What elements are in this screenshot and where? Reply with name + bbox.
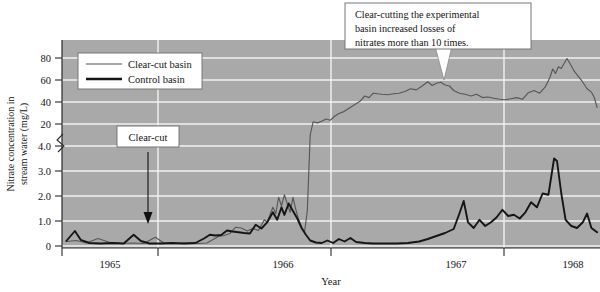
x-tick-label: 1967 xyxy=(446,259,467,270)
x-tick-label: 1968 xyxy=(563,259,584,270)
y-axis-tick-labels: 80 60 40 20 4.0 3.0 2.0 1.0 0 xyxy=(38,53,51,252)
y-tick-label: 1.0 xyxy=(38,216,51,227)
nitrate-concentration-chart: 80 60 40 20 4.0 3.0 2.0 1.0 0 1965 1966 … xyxy=(0,0,600,292)
callout-line-1: Clear-cutting the experimental xyxy=(355,9,479,20)
x-tick-label: 1966 xyxy=(273,259,294,270)
callout-line-2: basin increased losses of xyxy=(355,23,456,34)
y-axis-title-line1: Nitrate concentration in xyxy=(5,97,16,192)
y-tick-label: 40 xyxy=(41,97,52,108)
x-axis-ticks xyxy=(62,248,504,256)
y-tick-label: 60 xyxy=(41,75,52,86)
y-tick-label: 3.0 xyxy=(38,166,51,177)
callout-line-3: nitrates more than 10 times. xyxy=(355,37,468,48)
legend-label-clear-cut-basin: Clear-cut basin xyxy=(128,59,192,70)
y-axis-title-line2: stream water (mg/L) xyxy=(18,103,30,185)
y-tick-label: 80 xyxy=(41,53,52,64)
x-tick-label: 1965 xyxy=(100,259,121,270)
chart-legend: Clear-cut basin Control basin xyxy=(78,53,202,89)
y-tick-label: 20 xyxy=(41,119,52,130)
y-tick-label: 2.0 xyxy=(38,191,51,202)
y-tick-label: 4.0 xyxy=(38,141,51,152)
legend-label-control-basin: Control basin xyxy=(128,74,186,85)
clearcut-label-text: Clear-cut xyxy=(129,132,168,143)
y-tick-label: 0 xyxy=(46,241,51,252)
x-axis-title: Year xyxy=(321,276,341,287)
x-axis-tick-labels: 1965 1966 1967 1968 xyxy=(100,259,584,270)
